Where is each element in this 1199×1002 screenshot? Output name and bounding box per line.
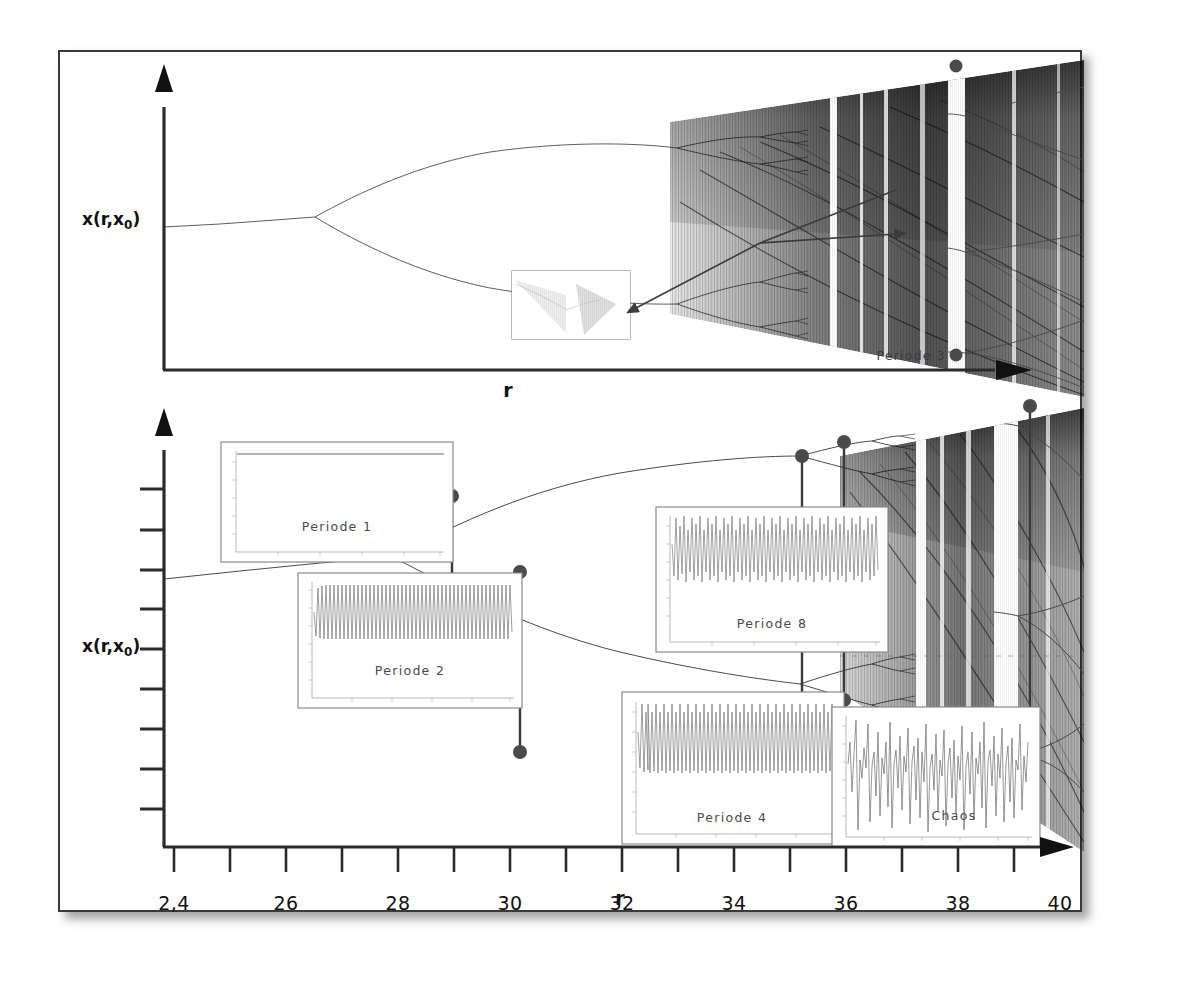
period-3-label: Periode 3 <box>877 348 946 363</box>
x-tick-label-3: 30 <box>497 892 522 914</box>
upper-y-axis-label: x(r,x0) <box>82 209 140 232</box>
inset-periode-2-label: Periode 2 <box>375 663 445 678</box>
x-tick-label-4: 32 <box>609 892 634 914</box>
lower-panel: Periode 1 Periode 2 <box>82 382 1084 914</box>
lower-y-axis-arrowhead <box>155 408 173 436</box>
bifurcation-figure: Periode 3 x(r <box>60 52 1084 914</box>
lower-y-axis-label: x(r,x0) <box>82 636 140 659</box>
inset-periode-8-label: Periode 8 <box>737 616 807 631</box>
period-3-marker-dot-top <box>950 60 963 73</box>
inset-chaos-label: Chaos <box>932 808 977 823</box>
x-tick-label-5: 34 <box>721 892 746 914</box>
upper-y-axis-arrowhead <box>155 64 173 92</box>
lower-y-axis-ticks <box>140 489 164 809</box>
inset-periode-4-label: Periode 4 <box>697 810 767 825</box>
inset-periode-2: Periode 2 <box>298 573 522 708</box>
inset-periode-1-label: Periode 1 <box>302 519 372 534</box>
x-axis-tick-labels: 2,4 26 28 30 32 34 36 38 40 <box>158 892 1072 914</box>
x-tick-label-2: 28 <box>385 892 410 914</box>
inset-periode-8: Periode 8 <box>656 507 888 652</box>
upper-chaotic-region <box>670 52 1084 452</box>
inset-periode-4: Periode 4 <box>622 692 844 844</box>
x-tick-label-0: 2,4 <box>158 892 190 914</box>
marker-dot-periode-8-top <box>837 435 851 449</box>
figure-frame: Periode 3 x(r <box>58 50 1082 912</box>
x-tick-label-7: 38 <box>945 892 970 914</box>
marker-dot-periode-4-top <box>795 449 809 463</box>
x-tick-label-8: 40 <box>1047 892 1072 914</box>
x-tick-label-6: 36 <box>833 892 858 914</box>
upper-x-axis-label: r <box>503 379 513 401</box>
marker-dot-periode-2-bottom <box>513 745 527 759</box>
x-axis-ticks <box>174 847 1014 872</box>
marker-dot-chaos-top <box>1023 399 1037 413</box>
x-tick-label-1: 26 <box>273 892 298 914</box>
inset-chaos: Chaos <box>832 707 1040 847</box>
period-3-marker-dot-bottom <box>950 349 963 362</box>
inset-periode-1: Periode 1 <box>221 442 453 562</box>
upper-panel: Periode 3 x(r <box>82 52 1084 452</box>
